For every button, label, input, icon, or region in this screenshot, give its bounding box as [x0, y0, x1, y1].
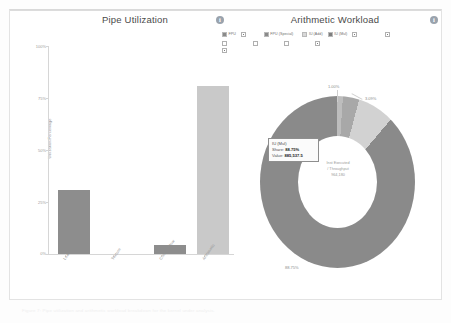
info-icon-arithmetic-workload[interactable]: i: [430, 16, 438, 24]
legend-item-fpu[interactable]: FPU: [222, 32, 236, 37]
slice-percent-fpu: 1.00%: [328, 84, 339, 89]
legend-label-iu-add: IU (Add): [309, 32, 323, 37]
legend-item-fpu-special[interactable]: FPU (Special): [264, 32, 294, 37]
legend-swatch-fpu: [222, 32, 227, 37]
legend-swatch-iu-add: [302, 32, 307, 37]
legend-label-iu-mul: IU (Mul): [334, 32, 347, 37]
page-title-pipe-utilization: Pipe Utilization: [40, 14, 230, 25]
slice-percent-iu-mul: 88.75%: [285, 265, 299, 270]
legend-item-iu-mul[interactable]: IU (Mul): [328, 32, 348, 37]
legend-checkbox-6[interactable]: [284, 41, 289, 46]
legend: FPU FPU (Special) IU (Add) IU (Mul): [222, 32, 440, 53]
leader-line-fpu: [337, 90, 338, 102]
legend-row-primary: FPU FPU (Special) IU (Add) IU (Mul): [222, 32, 440, 39]
tooltip-share-label: Share:: [272, 147, 284, 152]
y-tick-mark-0: [46, 254, 49, 255]
legend-swatch-iu-mul: [328, 32, 333, 37]
card-top-divider: [10, 10, 441, 11]
bar-arithmetic[interactable]: [197, 86, 229, 254]
chart-pipe-utilization: Utilization Percentage 100% 75% 50% 25% …: [18, 40, 233, 280]
chart-arithmetic-workload: Inst Executed / Throughput 964,180 1.00%…: [248, 88, 423, 280]
y-tick-label-50: 50%: [24, 148, 46, 153]
legend-item-iu-add[interactable]: IU (Add): [302, 32, 322, 37]
figure-caption: Figure 7: Pipe utilization and arithmeti…: [22, 308, 432, 313]
tooltip-share-value: 88.75%: [285, 147, 299, 152]
legend-checkbox-7[interactable]: [315, 41, 320, 46]
legend-label-fpu-special: FPU (Special): [270, 32, 293, 37]
y-tick-label-25: 25%: [24, 200, 46, 205]
page-title-arithmetic-workload: Arithmetic Workload: [255, 14, 415, 25]
y-tick-label-0: 0%: [24, 251, 46, 256]
legend-swatch-fpu-special: [264, 32, 269, 37]
legend-checkbox-3[interactable]: [385, 32, 390, 37]
tooltip-value-label: Value:: [272, 153, 283, 158]
legend-checkbox-5[interactable]: [253, 41, 258, 46]
tooltip-value-value: 885,537.5: [284, 153, 302, 158]
donut-center-label: Inst Executed / Throughput 964,180: [300, 160, 376, 178]
y-tick-label-75: 75%: [24, 96, 46, 101]
legend-checkbox-2[interactable]: [352, 32, 357, 37]
legend-row-secondary: [222, 41, 440, 46]
tooltip-iu-mul: IU (Mul) Share: 88.75% Value: 885,537.5: [268, 138, 319, 162]
legend-label-fpu: FPU: [229, 32, 236, 37]
tooltip-value-row: Value: 885,537.5: [272, 153, 315, 159]
slice-percent-fpu-special: 3.09%: [365, 96, 376, 101]
screenshot-root: Pipe Utilization i Arithmetic Workload i…: [0, 0, 451, 323]
info-icon-pipe-utilization[interactable]: i: [216, 16, 224, 24]
y-tick-label-100: 100%: [24, 44, 46, 49]
donut-center-line3: 964,180: [300, 172, 376, 178]
bar-plot-area: [49, 46, 234, 254]
legend-checkbox-1[interactable]: [241, 32, 246, 37]
legend-row-tertiary: [222, 48, 440, 53]
